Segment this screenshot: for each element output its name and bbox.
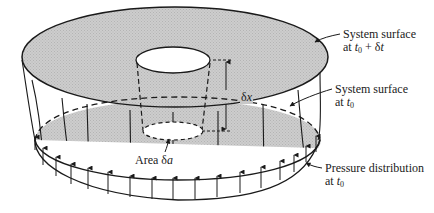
label-suffix: + δ <box>362 40 380 54</box>
dx-var: x <box>247 90 252 104</box>
label-line2: at t0 <box>335 96 408 112</box>
label-system-surface-t0-dt: System surface at t0 + δt <box>343 28 416 57</box>
area-var: a <box>167 153 173 167</box>
label-prefix: at <box>343 40 355 54</box>
area-da-ellipse <box>143 122 203 140</box>
dt-var: t <box>380 40 383 54</box>
label-line2: at t0 + δt <box>343 41 416 57</box>
label-prefix: at <box>325 174 337 188</box>
hole-top <box>136 47 210 73</box>
label-line2: at t0 <box>325 175 424 191</box>
label-system-surface-t0: System surface at t0 <box>335 83 408 112</box>
label-pressure-distribution: Pressure distribution at t0 <box>325 162 424 191</box>
label-prefix: at <box>335 95 347 109</box>
subscript: 0 <box>340 180 344 189</box>
label-dx: δx <box>240 91 253 104</box>
subscript: 0 <box>350 101 354 110</box>
area-prefix: Area δ <box>135 153 167 167</box>
label-area-da: Area δa <box>133 154 175 167</box>
